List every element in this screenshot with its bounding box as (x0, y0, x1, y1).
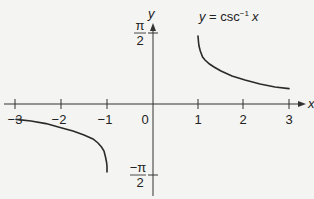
pi-numerator: π (136, 18, 145, 33)
denominator: 2 (136, 175, 143, 190)
x-tick-label: 2 (239, 112, 246, 127)
equation-csc: = csc (206, 9, 241, 24)
x-tick-label: 3 (285, 112, 292, 127)
curve-positive-branch (198, 36, 289, 89)
equation-x: x (251, 9, 259, 24)
equation-label: y = csc−1x (198, 9, 259, 24)
x-tick-label: −2 (52, 112, 67, 127)
x-axis-label: x (307, 96, 314, 111)
y-axis-label: y (147, 6, 156, 21)
x-axis-arrow-icon (298, 101, 306, 107)
x-tick-label: 1 (194, 112, 201, 127)
denominator: 2 (136, 33, 143, 48)
y-axis-arrow-icon (150, 23, 156, 31)
x-tick-label: 0 (141, 112, 148, 127)
chart-canvas: x y −3 −2 −1 0 1 2 3 π 2 −π 2 (0, 0, 314, 199)
equation-exponent: −1 (240, 9, 250, 18)
neg-pi-numerator: −π (130, 160, 147, 175)
y-tick-label-neg-pi-over-2: −π 2 (130, 160, 147, 190)
x-tick-label: −1 (98, 112, 113, 127)
y-tick-label-pi-over-2: π 2 (134, 18, 146, 48)
curve-negative-branch (16, 119, 107, 172)
